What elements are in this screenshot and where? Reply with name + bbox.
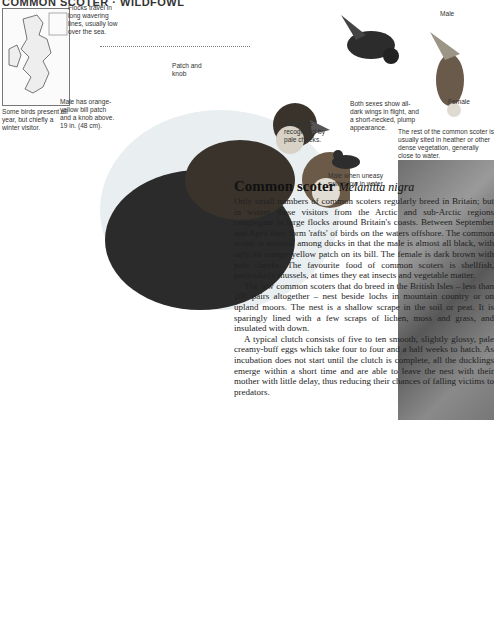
- paragraph-1: Only small numbers of common scoters reg…: [234, 196, 494, 281]
- paragraph-3: A typical clutch consists of five to ten…: [234, 334, 494, 398]
- flock-line-illustration: [100, 46, 250, 49]
- paragraph-2: The few common scoters that do breed in …: [234, 281, 494, 334]
- caption-female-label: Female: [448, 98, 470, 106]
- map-icon: [3, 9, 69, 105]
- swimming-male-illustration: [330, 148, 360, 170]
- article-title: Common scoter Melanitta nigra: [234, 178, 414, 195]
- caption-nest-photo: The rest of the common scoter is usually…: [398, 128, 494, 160]
- caption-flocks: Flocks travel in long wavering lines, us…: [68, 4, 118, 36]
- flying-female-illustration: [420, 30, 480, 120]
- flying-male-illustration: [336, 10, 406, 70]
- caption-male-bill-text: Male has orange-yellow bill patch and a …: [60, 98, 116, 130]
- caption-female-cheeks: Female is recognised by pale cheeks.: [284, 120, 336, 144]
- species-name: Common scoter: [234, 178, 335, 194]
- article-body: Only small numbers of common scoters reg…: [234, 196, 494, 397]
- caption-patch-knob: Patch and knob: [172, 62, 202, 78]
- distribution-map: [2, 8, 70, 106]
- latin-name: Melanitta nigra: [339, 180, 415, 194]
- caption-male-label: Male: [440, 10, 454, 18]
